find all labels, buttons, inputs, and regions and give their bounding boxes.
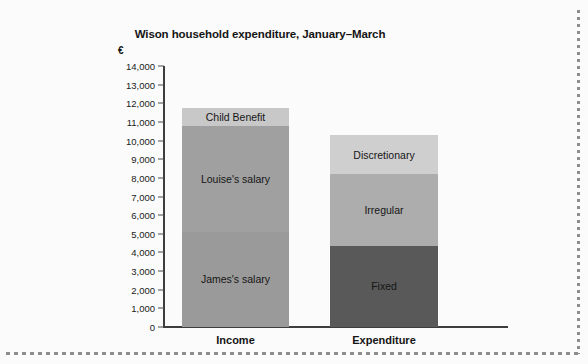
y-tick-mark	[158, 327, 164, 328]
y-tick-mark	[158, 84, 164, 85]
bar-segment-label: James's salary	[201, 273, 270, 285]
y-tick-label: 13,000	[95, 79, 155, 90]
y-tick-mark	[158, 271, 164, 272]
bar-segment-label: Irregular	[364, 204, 403, 216]
y-tick-mark	[158, 215, 164, 216]
y-tick-label: 12,000	[95, 98, 155, 109]
bar-segment[interactable]: James's salary	[182, 232, 289, 327]
y-tick-mark	[158, 140, 164, 141]
y-tick-label: 10,000	[95, 135, 155, 146]
y-tick-mark	[158, 103, 164, 104]
y-tick-label: 6,000	[95, 210, 155, 221]
y-tick-mark	[158, 66, 164, 67]
y-tick-label: 3,000	[95, 266, 155, 277]
y-tick-mark	[158, 233, 164, 234]
y-tick-label: 5,000	[95, 228, 155, 239]
y-tick-label: 0	[95, 322, 155, 333]
y-tick-mark	[158, 196, 164, 197]
y-tick-mark	[158, 252, 164, 253]
y-tick-label: 9,000	[95, 154, 155, 165]
y-tick-label: 11,000	[95, 116, 155, 127]
bar-segment-label: Louise's salary	[201, 173, 270, 185]
y-tick-mark	[158, 121, 164, 122]
y-tick-mark	[158, 159, 164, 160]
bar-segment-label: Discretionary	[353, 149, 414, 161]
plot-area: 01,0002,0003,0004,0005,0006,0007,0008,00…	[0, 0, 588, 364]
bar-segment[interactable]: Fixed	[330, 246, 438, 327]
y-tick-label: 2,000	[95, 284, 155, 295]
bar-segment[interactable]: Child Benefit	[182, 108, 289, 126]
y-tick-label: 1,000	[95, 303, 155, 314]
y-tick-label: 8,000	[95, 172, 155, 183]
stacked-bar[interactable]: FixedIrregularDiscretionary	[330, 135, 438, 327]
bar-segment-label: Child Benefit	[206, 111, 266, 123]
bar-segment-label: Fixed	[371, 280, 397, 292]
y-tick-mark	[158, 308, 164, 309]
category-label-expenditure: Expenditure	[330, 334, 438, 346]
figure-page: Wison household expenditure, January–Mar…	[0, 0, 588, 364]
y-tick-mark	[158, 177, 164, 178]
stacked-bar[interactable]: James's salaryLouise's salaryChild Benef…	[182, 108, 289, 327]
bar-segment[interactable]: Louise's salary	[182, 126, 289, 232]
y-tick-label: 4,000	[95, 247, 155, 258]
y-tick-label: 14,000	[95, 61, 155, 72]
bar-segment[interactable]: Irregular	[330, 174, 438, 246]
bar-segment[interactable]: Discretionary	[330, 135, 438, 174]
y-tick-mark	[158, 289, 164, 290]
y-tick-label: 7,000	[95, 191, 155, 202]
category-label-income: Income	[182, 334, 289, 346]
